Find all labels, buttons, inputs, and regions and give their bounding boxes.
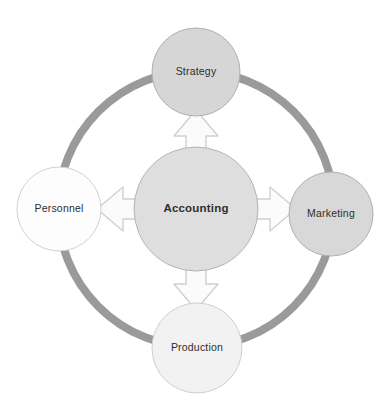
- diagram-svg: Strategy Marketing Production Personnel …: [0, 0, 391, 404]
- diagram-canvas: Strategy Marketing Production Personnel …: [0, 0, 391, 404]
- node-production-label: Production: [171, 341, 223, 353]
- node-strategy[interactable]: Strategy: [152, 28, 240, 116]
- node-marketing[interactable]: Marketing: [289, 172, 373, 256]
- node-production[interactable]: Production: [152, 303, 242, 393]
- node-strategy-label: Strategy: [176, 65, 217, 77]
- node-marketing-label: Marketing: [307, 207, 355, 219]
- node-personnel-label: Personnel: [34, 202, 83, 214]
- node-personnel[interactable]: Personnel: [17, 167, 101, 251]
- node-accounting[interactable]: Accounting: [134, 147, 258, 271]
- node-accounting-label: Accounting: [163, 202, 228, 214]
